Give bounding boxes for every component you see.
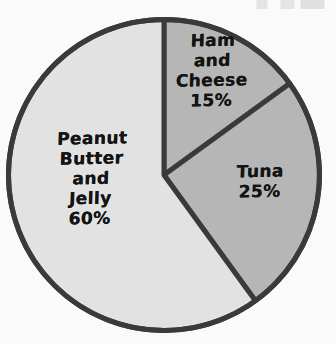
pie-chart: Ham and Cheese 15% Tuna 25% Peanut Butte… xyxy=(0,0,336,344)
pie-chart-canvas xyxy=(0,0,336,344)
